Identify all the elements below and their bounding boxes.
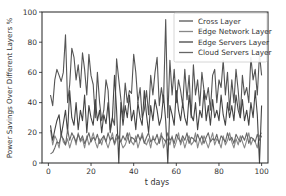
x-tick-label: 100	[254, 167, 269, 176]
legend-label: Edge Network Layer	[198, 27, 272, 36]
y-tick-label: 20	[27, 128, 37, 137]
y-tick-label: 40	[27, 98, 37, 107]
legend-label: Edge Servers Layer	[198, 38, 269, 47]
y-tick-label: 100	[23, 8, 38, 17]
x-tick-label: 40	[129, 167, 139, 176]
x-tick-label: 60	[172, 167, 182, 176]
legend: Cross LayerEdge Network LayerEdge Server…	[174, 13, 272, 62]
y-tick-label: 60	[27, 68, 37, 77]
x-tick-label: 80	[214, 167, 224, 176]
x-axis-label: t days	[145, 178, 170, 187]
line-chart: 020406080100 020406080100 t days Power S…	[0, 0, 286, 196]
y-tick-label: 80	[27, 38, 37, 47]
legend-label: Cross Layer	[198, 17, 241, 26]
x-tick-label: 20	[86, 167, 96, 176]
x-tick-label: 0	[46, 167, 51, 176]
legend-label: Cloud Servers Layer	[198, 48, 272, 57]
y-tick-label: 0	[32, 159, 37, 168]
y-axis-label: Power Savings Over Different Layers %	[5, 18, 14, 159]
